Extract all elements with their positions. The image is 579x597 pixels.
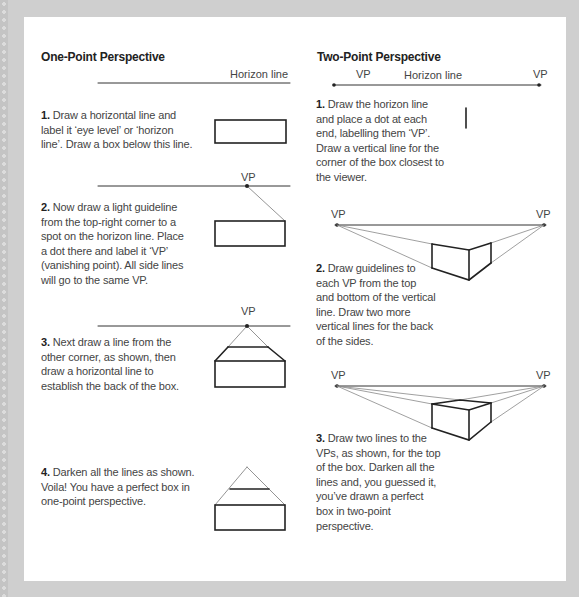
two-point-step-2: 2. Draw guidelines to each VP from the t… <box>316 261 436 349</box>
step-number: 2. <box>316 262 325 274</box>
step-number: 1. <box>316 98 325 110</box>
two-point-step-1: 1. Draw the horizon line and place a dot… <box>316 97 446 185</box>
two-point-vp-right-label-3: VP <box>536 369 551 381</box>
one-point-vp-label-2: VP <box>241 171 256 183</box>
step-text: Now draw a light guideline from the top-… <box>41 201 184 286</box>
step-text: Draw the horizon line and place a dot at… <box>316 98 444 183</box>
one-point-title: One-Point Perspective <box>41 50 165 64</box>
dotted-binding-strip <box>0 0 8 597</box>
one-point-step-2: 2. Now draw a light guideline from the t… <box>41 200 191 288</box>
step-number: 3. <box>316 432 325 444</box>
step-number: 2. <box>41 201 50 213</box>
two-point-horizon-label: Horizon line <box>404 69 462 81</box>
step-text: Draw a horizontal line and label it ‘eye… <box>41 109 192 150</box>
step-text: Draw guidelines to each VP from the top … <box>316 262 436 347</box>
one-point-vp-label-3: VP <box>241 305 256 317</box>
one-point-horizon-label: Horizon line <box>230 68 288 80</box>
two-point-step-3: 3. Draw two lines to the VPs, as shown, … <box>316 431 441 533</box>
one-point-step-3: 3. Next draw a line from the other corne… <box>41 335 191 393</box>
two-point-vp-right-label-1: VP <box>533 68 548 80</box>
one-point-step-1: 1. Draw a horizontal line and label it ‘… <box>41 108 196 152</box>
one-point-step-4: 4. Darken all the lines as shown. Voila!… <box>41 465 201 509</box>
step-text: Next draw a line from the other corner, … <box>41 336 179 392</box>
two-point-title: Two-Point Perspective <box>317 50 441 64</box>
step-text: Draw two lines to the VPs, as shown, for… <box>316 432 441 532</box>
two-point-vp-left-label-3: VP <box>331 369 346 381</box>
two-point-vp-left-label-2: VP <box>331 208 346 220</box>
step-number: 1. <box>41 109 50 121</box>
two-point-vp-right-label-2: VP <box>536 208 551 220</box>
two-point-vp-left-label-1: VP <box>356 68 371 80</box>
step-number: 3. <box>41 336 50 348</box>
step-number: 4. <box>41 466 50 478</box>
step-text: Darken all the lines as shown. Voila! Yo… <box>41 466 194 507</box>
